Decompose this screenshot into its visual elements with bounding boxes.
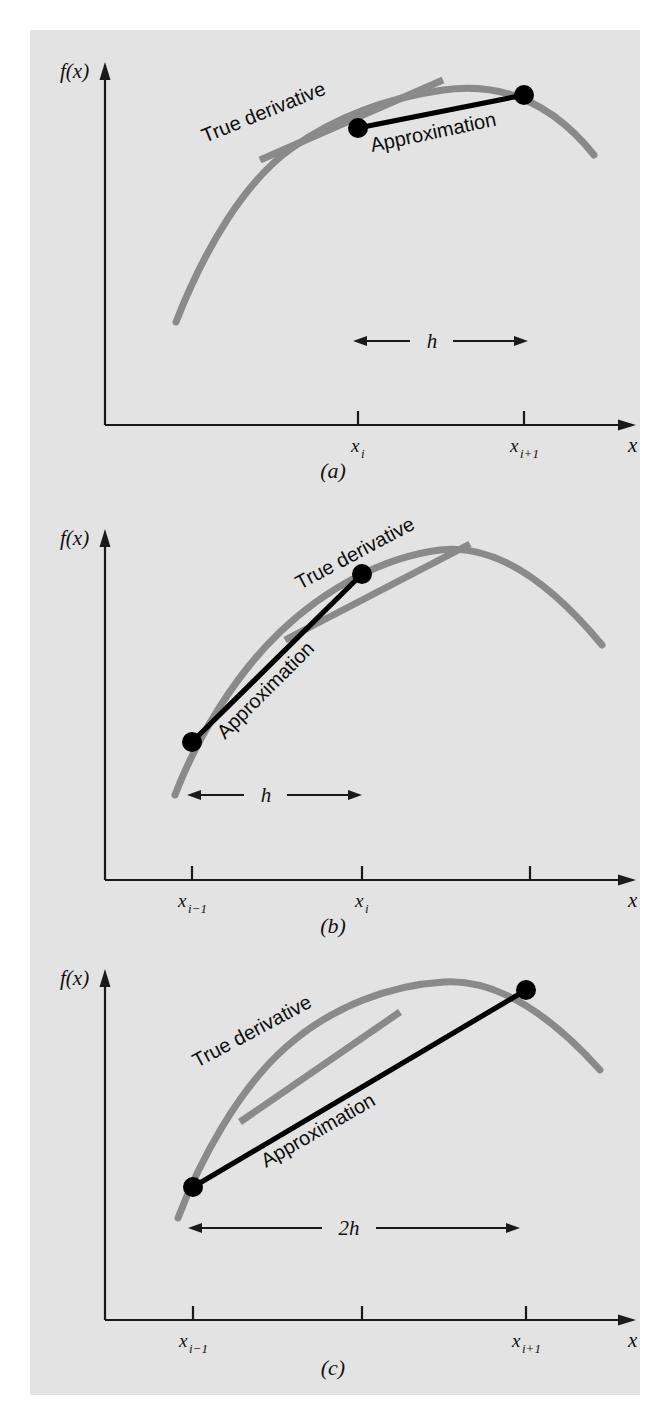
panel-c-xlabel: x: [627, 1328, 638, 1352]
panel-b-y-axis-arrow: [100, 529, 111, 547]
panel-a: True derivative Approximation h x i x i+…: [60, 59, 638, 483]
panel-b-h-dimension: h: [187, 783, 362, 807]
panel-c-2h-arrow-right: [506, 1223, 520, 1233]
panel-c-label-true-derivative: True derivative: [189, 990, 315, 1071]
panel-b-ticklabel-xi-sub: i: [365, 901, 369, 916]
panel-c-2h-dimension: 2h: [188, 1216, 520, 1240]
panel-b-point-xim1: [182, 732, 202, 752]
panel-a-ticklabel-xi1: x i+1: [509, 435, 539, 461]
panel-a-h-arrow-right: [514, 336, 528, 346]
panel-a-ticklabel-xi-sub: i: [361, 446, 365, 461]
panel-c-ticklabel-xi1: x i+1: [511, 1330, 541, 1356]
panel-b-secant-line: [192, 574, 362, 742]
panel-a-h-label: h: [427, 329, 438, 353]
panel-a-point-xi1: [514, 85, 534, 105]
panel-a-h-arrow-left: [353, 336, 367, 346]
panel-a-ylabel: f(x): [60, 59, 89, 83]
panel-a-y-axis-arrow: [100, 62, 111, 80]
panel-c-2h-arrow-left: [188, 1223, 202, 1233]
panel-a-caption: (a): [320, 458, 346, 483]
panel-c-ylabel: f(x): [60, 966, 89, 990]
figure-root: True derivative Approximation h x i x i+…: [0, 0, 665, 1421]
panel-b-caption: (b): [320, 913, 346, 938]
panel-b-ticklabel-xim1: x i−1: [177, 890, 207, 916]
panel-b-ticklabel-xim1-sub: i−1: [188, 901, 207, 916]
panel-b-xlabel: x: [627, 888, 638, 912]
panel-b-h-arrow-right: [348, 790, 362, 800]
panel-b-ylabel: f(x): [60, 526, 89, 550]
panel-a-h-dimension: h: [353, 329, 528, 353]
panel-b-x-axis-arrow: [618, 875, 636, 886]
panel-a-x-axis-arrow: [618, 420, 636, 431]
panel-b-point-xi: [352, 564, 372, 584]
panel-c-ticklabel-xim1-sub: i−1: [189, 1341, 208, 1356]
panel-c: True derivative Approximation 2h x i−1 x: [60, 966, 638, 1380]
panel-a-ticklabel-xi1-base: x: [509, 435, 519, 456]
panel-b-h-label: h: [261, 783, 272, 807]
panel-c-secant-line: [193, 990, 526, 1187]
panel-b-ticklabel-xim1-base: x: [177, 890, 187, 911]
panel-c-ticklabel-xi1-sub: i+1: [522, 1341, 541, 1356]
panel-c-x-axis-arrow: [618, 1315, 636, 1326]
panel-a-xlabel: x: [627, 433, 638, 457]
panel-a-point-xi: [348, 118, 368, 138]
panel-b-ticklabel-xi-base: x: [354, 890, 364, 911]
panel-c-ticklabel-xi1-base: x: [511, 1330, 521, 1351]
panel-a-ticklabel-xi1-sub: i+1: [520, 446, 539, 461]
panel-a-ticklabel-xi: x i: [350, 435, 365, 461]
figure-canvas: True derivative Approximation h x i x i+…: [0, 0, 665, 1421]
panel-c-2h-label: 2h: [339, 1216, 360, 1240]
panel-b: True derivative Approximation h x i−1 x: [60, 512, 638, 938]
panel-c-point-xi1: [516, 980, 536, 1000]
panel-c-ticklabel-xim1-base: x: [178, 1330, 188, 1351]
panel-c-point-xim1: [183, 1177, 203, 1197]
panel-b-ticklabel-xi: x i: [354, 890, 369, 916]
panel-b-h-arrow-left: [187, 790, 201, 800]
panel-a-ticklabel-xi-base: x: [350, 435, 360, 456]
panel-c-ticklabel-xim1: x i−1: [178, 1330, 208, 1356]
panel-c-y-axis-arrow: [100, 969, 111, 987]
panel-c-caption: (c): [321, 1355, 345, 1380]
